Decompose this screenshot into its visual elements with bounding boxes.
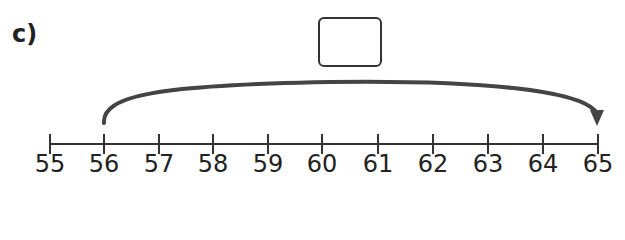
- tick-label: 59: [253, 150, 284, 178]
- tick-label: 60: [307, 150, 338, 178]
- tick-label: 56: [89, 150, 120, 178]
- tick-label: 62: [418, 150, 449, 178]
- tick-label: 61: [363, 150, 394, 178]
- tick-label: 57: [144, 150, 175, 178]
- tick-label: 65: [583, 150, 614, 178]
- tick-label: 64: [528, 150, 559, 178]
- tick-label: 55: [35, 150, 66, 178]
- tick-label: 58: [198, 150, 229, 178]
- jump-arc: [104, 82, 596, 123]
- tick-label: 63: [473, 150, 504, 178]
- arrowhead-icon: [590, 110, 604, 126]
